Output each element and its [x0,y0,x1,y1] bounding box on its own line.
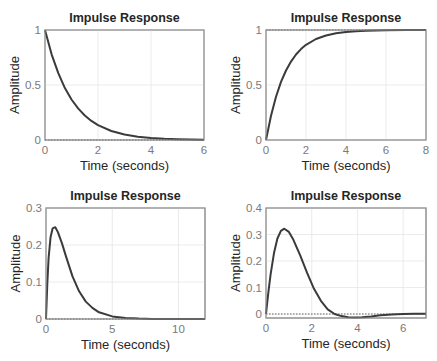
subplot-1: 024600.51Impulse ResponseTime (seconds)A… [7,11,207,173]
y-tick-label: 0 [256,308,262,320]
y-tick-label: 0 [35,134,41,146]
subplot-4: 024600.10.20.30.4Impulse ResponseTime (s… [228,189,426,351]
y-tick-label: 0.1 [246,282,262,294]
y-tick-label: 1 [35,24,41,36]
subplot-3: 051000.10.20.3Impulse ResponseTime (seco… [8,189,205,352]
x-tick-label: 0 [42,144,48,156]
x-tick-label: 2 [309,322,315,334]
y-tick-label: 0.4 [246,202,263,214]
x-axis-label: Time (seconds) [301,336,390,351]
y-tick-label: 0.5 [246,79,262,91]
chart-title: Impulse Response [70,189,180,203]
subplot-2: 0246800.51Impulse ResponseTime (seconds)… [228,11,429,173]
x-tick-label: 0 [263,322,269,334]
x-tick-label: 2 [303,144,309,156]
plot-area [266,208,426,318]
x-tick-label: 5 [109,323,115,335]
y-axis-label: Amplitude [8,235,23,293]
y-tick-label: 0.2 [246,255,262,267]
x-tick-label: 0 [263,144,269,156]
y-tick-label: 0.3 [26,202,42,214]
y-tick-label: 0.1 [26,276,42,288]
chart-title: Impulse Response [69,11,179,25]
x-tick-label: 6 [201,144,207,156]
y-tick-label: 1 [256,24,262,36]
y-axis-label: Amplitude [228,56,243,114]
y-tick-label: 0 [256,134,262,146]
y-tick-label: 0.5 [25,79,41,91]
y-axis-label: Amplitude [7,56,22,114]
chart-title: Impulse Response [291,11,401,25]
x-axis-label: Time (seconds) [81,337,170,352]
y-axis-label: Amplitude [228,234,243,292]
plot-area [46,208,205,319]
x-axis-label: Time (seconds) [80,158,169,173]
x-tick-label: 4 [148,144,155,156]
x-tick-label: 4 [354,322,361,334]
y-tick-label: 0.2 [26,239,42,251]
x-tick-label: 10 [172,323,185,335]
chart-title: Impulse Response [291,189,401,203]
figure: 024600.51Impulse ResponseTime (seconds)A… [0,0,437,361]
x-tick-label: 0 [43,323,49,335]
y-tick-label: 0.3 [246,229,262,241]
y-tick-label: 0 [36,313,42,325]
x-tick-label: 6 [383,144,389,156]
x-tick-label: 6 [400,322,406,334]
x-axis-label: Time (seconds) [301,158,390,173]
x-tick-label: 2 [95,144,101,156]
x-tick-label: 4 [343,144,350,156]
x-tick-label: 8 [423,144,429,156]
